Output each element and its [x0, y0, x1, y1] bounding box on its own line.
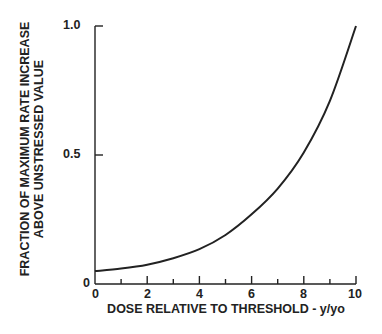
- y-axis-label-line1: FRACTION OF MAXIMUM RATE INCREASE: [18, 0, 32, 299]
- x-tick-label: 2: [144, 287, 151, 301]
- x-tick-label: 8: [300, 287, 307, 301]
- x-tick-label: 10: [348, 287, 362, 301]
- x-tick-label: 6: [248, 287, 255, 301]
- y-tick-label: 1.0: [63, 18, 80, 32]
- response-curve: [95, 26, 356, 271]
- x-tick-label: 0: [92, 287, 99, 301]
- x-axis-label: DOSE RELATIVE TO THRESHOLD - y/yo: [95, 302, 357, 316]
- x-tick-label: 4: [196, 287, 203, 301]
- y-tick-label: 0: [83, 276, 90, 290]
- y-axis-label: FRACTION OF MAXIMUM RATE INCREASE ABOVE …: [18, 0, 46, 299]
- y-axis-label-line2: ABOVE UNSTRESSED VALUE: [32, 0, 46, 299]
- y-tick-label: 0.5: [63, 147, 80, 161]
- chart-plot: [0, 0, 382, 334]
